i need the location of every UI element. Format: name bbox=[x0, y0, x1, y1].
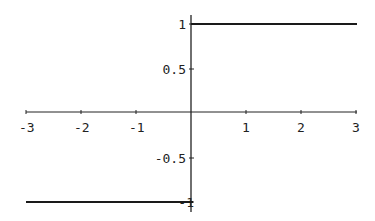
y-tick-label: 1 bbox=[178, 17, 186, 32]
x-tick-label: 1 bbox=[242, 120, 250, 135]
x-tick-label: 2 bbox=[297, 120, 305, 135]
x-tick-label: 3 bbox=[352, 120, 360, 135]
y-tick-labels: 1 0.5 -0.5 -1 bbox=[155, 17, 194, 210]
y-tick-label: -0.5 bbox=[155, 151, 186, 166]
x-tick-label: -1 bbox=[129, 120, 145, 135]
x-tick-label: -3 bbox=[19, 120, 35, 135]
x-tick-label: -2 bbox=[74, 120, 90, 135]
plot: -3 -2 -1 1 2 3 1 0.5 -0.5 -1 bbox=[0, 0, 375, 221]
x-tick-labels: -3 -2 -1 1 2 3 bbox=[19, 120, 360, 135]
y-tick-label: 0.5 bbox=[163, 62, 186, 77]
